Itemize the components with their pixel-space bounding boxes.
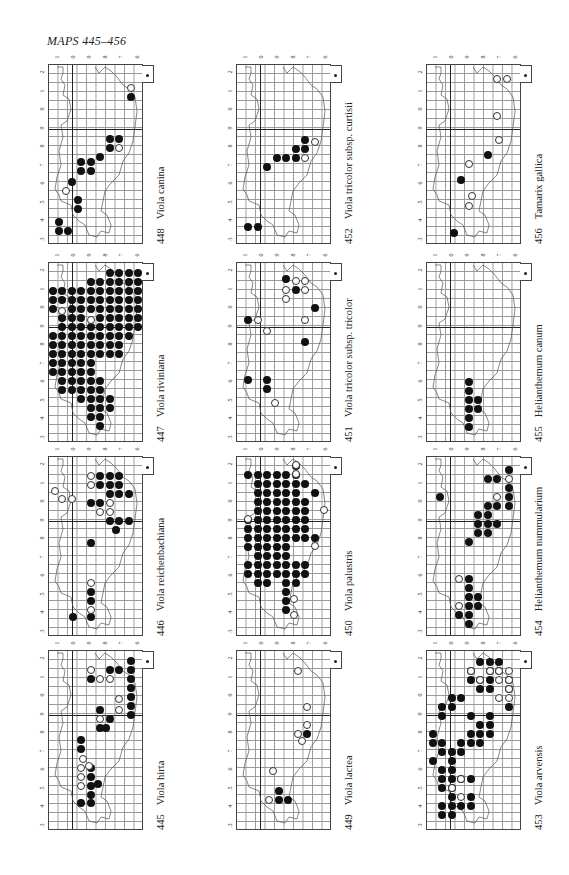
axis-tick-top: 6	[512, 642, 518, 645]
map-caption: 452Viola tricolor subsp. curtisii	[340, 64, 356, 244]
axis-tick-top: 7	[306, 642, 312, 645]
axis-tick-left: 7	[417, 555, 423, 558]
record-dot-filled	[244, 561, 252, 569]
axis-tick-left: 4	[39, 805, 45, 808]
record-dot-open	[58, 495, 66, 503]
species-name: Viola tricolor subsp. curtisii	[343, 102, 354, 219]
record-dot-filled	[263, 579, 271, 587]
record-dot-filled	[465, 538, 473, 546]
record-dot-filled	[94, 780, 102, 788]
axis-tick-left: 5	[39, 592, 45, 595]
record-dot-open	[493, 493, 501, 501]
record-dot-filled	[455, 611, 463, 619]
record-dot-filled	[292, 570, 300, 578]
axis-tick-top: 1	[242, 448, 248, 451]
record-dot-open	[292, 277, 300, 285]
record-dot-open	[505, 694, 513, 702]
axis-tick-left: 1	[227, 481, 233, 484]
axis-tick-left: 8	[417, 731, 423, 734]
record-dot-filled	[115, 135, 123, 143]
record-dot-filled	[484, 475, 492, 483]
map-caption: 453Viola arvensis	[530, 650, 546, 830]
axis-tick-left: 5	[417, 786, 423, 789]
axis-tick-top: 8	[290, 56, 296, 59]
record-dot-filled	[77, 305, 85, 313]
record-dot-filled	[292, 498, 300, 506]
record-dot-filled	[87, 799, 95, 807]
record-dot-filled	[87, 287, 95, 295]
map-caption: 451Viola tricolor subsp. tricolor	[340, 262, 356, 442]
record-dot-filled	[244, 525, 252, 533]
axis-tick-left: 3	[39, 629, 45, 632]
record-dot-filled	[495, 658, 503, 666]
record-dot-filled	[438, 739, 446, 747]
axis-tick-left: 6	[39, 182, 45, 185]
record-dot-filled	[96, 341, 104, 349]
axis-tick-left: 8	[227, 731, 233, 734]
record-dot-filled	[486, 721, 494, 729]
record-dot-filled	[58, 350, 66, 358]
record-dot-filled	[448, 694, 456, 702]
record-dot-filled	[505, 493, 513, 501]
record-dot-filled	[68, 305, 76, 313]
record-dot-open	[455, 575, 463, 583]
record-dot-open	[96, 508, 104, 516]
record-dot-filled	[448, 766, 456, 774]
record-dot-filled	[301, 145, 309, 153]
map-caption: 450Viola palustris	[340, 456, 356, 636]
axis-tick-top: 9	[86, 642, 92, 645]
distribution-map-455: 2109876543109876455Helianthemum canum	[418, 248, 568, 438]
record-dot-filled	[301, 507, 309, 515]
record-dot-open	[290, 611, 298, 619]
map-grid-frame: 2109876543109876	[426, 262, 521, 442]
record-dot-filled	[311, 534, 319, 542]
axis-tick-top: 9	[274, 448, 280, 451]
axis-tick-top: 1	[432, 56, 438, 59]
record-dot-filled	[87, 413, 95, 421]
axis-tick-left: 5	[39, 786, 45, 789]
record-dot-filled	[273, 507, 281, 515]
record-dot-filled	[115, 481, 123, 489]
record-dot-filled	[87, 305, 95, 313]
axis-tick-left: 5	[227, 592, 233, 595]
record-dot-filled	[77, 296, 85, 304]
record-dot-filled	[58, 287, 66, 295]
record-dot-filled	[87, 377, 95, 385]
record-dot-filled	[301, 498, 309, 506]
axis-tick-left: 3	[417, 435, 423, 438]
record-dot-filled	[106, 314, 114, 322]
record-dot-filled	[96, 278, 104, 286]
record-dot-open	[87, 472, 95, 480]
record-dot-filled	[263, 507, 271, 515]
axis-tick-top: 8	[290, 254, 296, 257]
record-dot-filled	[77, 799, 85, 807]
record-dot-filled	[448, 703, 456, 711]
record-dot-open	[503, 75, 511, 83]
distribution-map-453: 2109876543109876453Viola arvensis	[418, 636, 568, 826]
axis-tick-left: 1	[39, 287, 45, 290]
record-dot-filled	[273, 525, 281, 533]
axis-tick-left: 9	[39, 518, 45, 521]
record-dot-filled	[49, 296, 57, 304]
coastline-outline	[427, 65, 522, 245]
axis-tick-left: 1	[417, 481, 423, 484]
distribution-map-451: 2109876543109876451Viola tricolor subsp.…	[228, 248, 378, 438]
axis-tick-left: 2	[227, 269, 233, 272]
record-dot-filled	[125, 269, 133, 277]
coastline-outline	[427, 263, 522, 443]
record-dot-filled	[87, 499, 95, 507]
axis-tick-left: 9	[227, 518, 233, 521]
record-dot-filled	[311, 304, 319, 312]
record-dot-filled	[77, 341, 85, 349]
axis-tick-left: 3	[227, 629, 233, 632]
map-number: 452	[343, 228, 354, 244]
distribution-map-450: 2109876543109876450Viola palustris	[228, 442, 378, 632]
record-dot-filled	[96, 499, 104, 507]
record-dot-filled	[96, 404, 104, 412]
record-dot-open	[51, 487, 59, 495]
record-dot-open	[303, 703, 311, 711]
record-dot-filled	[68, 377, 76, 385]
axis-tick-top: 6	[134, 642, 140, 645]
record-dot-filled	[244, 534, 252, 542]
axis-tick-top: 8	[102, 642, 108, 645]
